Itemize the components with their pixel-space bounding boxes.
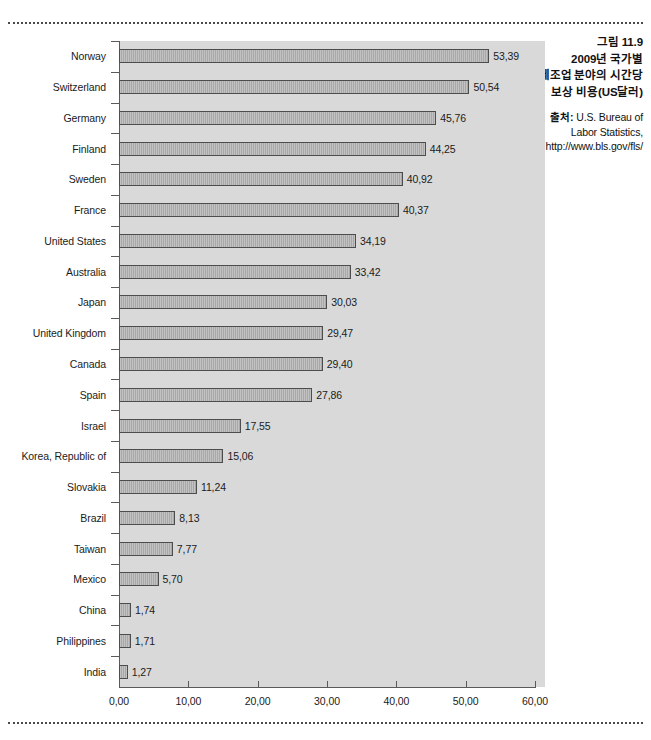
y-axis-tick (111, 656, 120, 657)
x-axis-tick (119, 681, 120, 688)
category-label: Taiwan (74, 543, 106, 555)
bar (119, 80, 469, 94)
bar (119, 142, 426, 156)
figure-caption-title: 그림 11.9 2009년 국가별 제조업 분야의 시간당 보상 비용(US달러… (531, 34, 643, 100)
bar-value-label: 34,19 (360, 235, 386, 247)
bar (119, 449, 223, 463)
bar-value-label: 53,39 (493, 50, 519, 62)
x-axis-tick-label: 10,00 (158, 695, 218, 707)
x-axis-tick-label: 0,00 (89, 695, 149, 707)
bar (119, 419, 241, 433)
bar-value-label: 33,42 (355, 266, 381, 278)
bar (119, 111, 436, 125)
x-axis-tick (188, 681, 189, 688)
category-label: Spain (80, 389, 106, 401)
bar (119, 295, 327, 309)
y-axis-tick (111, 72, 120, 73)
category-label: Brazil (80, 512, 106, 524)
category-label: France (74, 204, 106, 216)
x-axis-tick-label: 30,00 (297, 695, 357, 707)
bar (119, 388, 312, 402)
bar-value-label: 40,37 (403, 204, 429, 216)
y-axis-tick (111, 103, 120, 104)
x-axis-tick (535, 681, 536, 688)
category-label: Australia (66, 266, 106, 278)
y-axis-tick (111, 472, 120, 473)
category-label: Germany (64, 112, 106, 124)
bar-value-label: 1,74 (135, 604, 155, 616)
category-label: Canada (70, 358, 106, 370)
bar-value-label: 29,40 (327, 358, 353, 370)
category-label: United States (44, 235, 106, 247)
bar-value-label: 40,92 (407, 173, 433, 185)
bar (119, 572, 159, 586)
y-axis-tick (111, 625, 120, 626)
figure-title-line-1: 2009년 국가별 (531, 51, 643, 68)
x-axis-tick (327, 681, 328, 688)
y-axis-tick (111, 226, 120, 227)
y-axis-tick (111, 41, 120, 42)
bar (119, 511, 175, 525)
bar (119, 480, 197, 494)
bar-value-label: 44,25 (430, 143, 456, 155)
category-label: Korea, Republic of (21, 450, 106, 462)
bar (119, 603, 131, 617)
x-axis-tick-label: 20,00 (228, 695, 288, 707)
category-label: Philippines (56, 635, 106, 647)
bar (119, 665, 128, 679)
y-axis-tick (111, 441, 120, 442)
y-axis-tick (111, 287, 120, 288)
category-label: United Kingdom (33, 327, 106, 339)
bar-value-label: 8,13 (179, 512, 199, 524)
y-axis-tick (111, 133, 120, 134)
figure-source-label: 출처: (550, 111, 573, 123)
bar-value-label: 45,76 (440, 112, 466, 124)
y-axis-tick (111, 164, 120, 165)
y-axis-tick (111, 318, 120, 319)
category-label: Sweden (69, 173, 106, 185)
y-axis-tick (111, 410, 120, 411)
bar-value-label: 17,55 (245, 420, 271, 432)
y-axis-tick (111, 379, 120, 380)
category-label: Japan (78, 296, 106, 308)
x-axis-tick (396, 681, 397, 688)
x-axis-tick (466, 681, 467, 688)
bar (119, 265, 351, 279)
figure-source: 출처: U.S. Bureau of Labor Statistics, htt… (531, 110, 643, 154)
bar-value-label: 29,47 (327, 327, 353, 339)
bar-value-label: 50,54 (473, 81, 499, 93)
y-axis-tick (111, 195, 120, 196)
bar (119, 172, 403, 186)
y-axis-tick (111, 564, 120, 565)
bar-value-label: 15,06 (227, 450, 253, 462)
x-axis-tick-label: 60,00 (505, 695, 565, 707)
y-axis-tick (111, 533, 120, 534)
bottom-dotted-divider (8, 722, 643, 724)
top-dotted-divider (8, 22, 643, 24)
y-axis-tick (111, 502, 120, 503)
bar (119, 326, 323, 340)
y-axis-tick (111, 256, 120, 257)
bar (119, 49, 489, 63)
category-label: Finland (72, 143, 106, 155)
y-axis-tick (111, 595, 120, 596)
category-label: India (84, 666, 106, 678)
category-label: Slovakia (67, 481, 106, 493)
bar (119, 634, 131, 648)
x-axis-tick-label: 40,00 (366, 695, 426, 707)
figure-title-line-3: 보상 비용(US달러) (531, 84, 643, 101)
x-axis-tick-label: 50,00 (436, 695, 496, 707)
bar-value-label: 7,77 (177, 543, 197, 555)
bar-value-label: 11,24 (201, 481, 226, 493)
category-label: China (79, 604, 106, 616)
bar-value-label: 27,86 (316, 389, 342, 401)
bar (119, 203, 399, 217)
x-axis-tick (258, 681, 259, 688)
figure-number: 그림 11.9 (531, 34, 643, 51)
figure-caption: 그림 11.9 2009년 국가별 제조업 분야의 시간당 보상 비용(US달러… (531, 34, 643, 154)
category-label: Switzerland (53, 81, 106, 93)
bar-value-label: 30,03 (331, 296, 357, 308)
bar-value-label: 5,70 (163, 573, 183, 585)
bar-value-label: 1,27 (132, 666, 152, 678)
category-label: Israel (81, 420, 106, 432)
